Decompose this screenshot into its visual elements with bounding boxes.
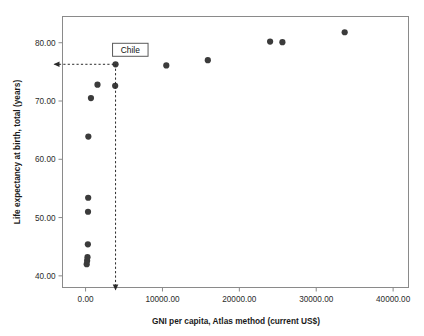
x-tick-label: 30000.00	[299, 295, 334, 304]
data-point	[279, 39, 285, 45]
y-axis-title: Life expectancy at birth, total (years)	[12, 80, 22, 225]
data-point	[85, 209, 91, 215]
y-axis-ticks: 40.0050.0060.0070.0080.00	[35, 39, 63, 281]
x-tick-label: 40000.00	[376, 295, 411, 304]
data-point	[267, 38, 273, 44]
data-point	[163, 62, 169, 68]
data-point	[85, 133, 91, 139]
data-point	[85, 241, 91, 247]
annotation-label-text: Chile	[121, 45, 140, 55]
data-point	[85, 195, 91, 201]
chart-canvas: 40.0050.0060.0070.0080.00 0.0010000.0020…	[0, 0, 424, 336]
x-tick-label: 20000.00	[222, 295, 257, 304]
data-point	[88, 95, 94, 101]
y-tick-label: 50.00	[35, 214, 56, 223]
x-tick-label: 0.00	[78, 295, 94, 304]
x-tick-label: 10000.00	[145, 295, 180, 304]
scatter-chart: 40.0050.0060.0070.0080.00 0.0010000.0020…	[0, 0, 424, 336]
data-point	[342, 29, 348, 35]
data-point	[84, 254, 90, 260]
y-tick-label: 60.00	[35, 155, 56, 164]
data-point	[94, 82, 100, 88]
data-point	[205, 57, 211, 63]
x-axis-ticks: 0.0010000.0020000.0030000.0040000.00	[78, 288, 411, 304]
y-tick-label: 70.00	[35, 97, 56, 106]
x-axis-title: GNI per capita, Atlas method (current US…	[152, 316, 320, 326]
annotation-callout: Chile	[113, 43, 149, 56]
y-tick-label: 80.00	[35, 39, 56, 48]
y-guide-arrowhead	[54, 61, 60, 67]
y-tick-label: 40.00	[35, 272, 56, 281]
plot-frame	[63, 17, 409, 288]
